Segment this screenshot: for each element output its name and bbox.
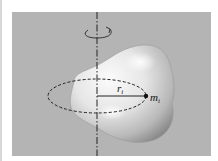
rigid-body-diagram: ri mi [0,0,218,161]
mass-element-point [144,94,148,98]
rotation-arrowhead-icon [106,27,110,33]
body-highlight [124,52,156,72]
body-highlight-2 [98,104,126,120]
rotation-arrow-icon [85,29,111,38]
